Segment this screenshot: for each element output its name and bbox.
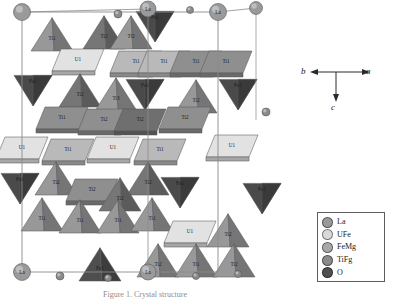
atom-la [14,4,31,21]
polyhedron-face [152,198,173,231]
polyhedron-face [42,139,94,161]
atom-o [114,10,122,18]
polyhedron-face [164,243,207,247]
polyhedron-face [114,131,157,135]
polyhedron-fe1 [243,183,281,214]
polyhedron-u1 [52,49,104,75]
polyhedron-face [66,201,109,205]
polyhedron-face [262,183,281,214]
legend-swatch-o [322,267,333,278]
polyhedron-face [114,109,166,131]
legend-item: UFe [322,229,384,242]
atom-highlight [251,3,256,8]
legend-label: FeMg [337,243,356,251]
polyhedron-ti1 [31,18,73,51]
polyhedron-fe1 [79,248,121,281]
polyhedron-fe1 [219,79,257,110]
polyhedron-fe1 [1,173,39,204]
legend-item: O [322,266,384,279]
polyhedron-face [0,159,39,163]
axis-label-b: b [301,66,306,76]
atom-highlight [16,266,23,273]
polyhedron-face [155,11,174,42]
polyhedron-face [52,49,104,71]
polyhedron-u1 [0,137,48,163]
polyhedron-ti1 [131,198,173,231]
polyhedron-face [33,75,52,106]
atom-o [187,7,194,14]
atom-highlight [115,11,118,14]
polyhedron-face [87,159,130,163]
polyhedron-face [206,157,249,161]
atom-highlight [57,273,60,276]
atom-highlight [263,109,266,112]
structure-canvas: Ti1Ti2TOFe1U1Ti1Ti1Ti1Ti1Fe1Ti2Ti3Fe1Ti2… [0,0,290,290]
atom-o [105,275,112,282]
atom-la [14,264,31,281]
polyhedron-ti1 [21,198,63,231]
polyhedron-face [36,129,79,133]
polyhedron-face [95,78,118,111]
polyhedron-face [228,214,249,247]
legend-label: TiFg [337,256,352,264]
polyhedron-face [206,135,258,157]
axis-label-c: c [331,102,335,112]
legend-swatch-tifg [322,255,333,266]
atom-la [140,1,156,17]
atom-o [193,273,200,280]
polyhedron-ti2 [159,107,211,133]
polyhedron-ti1 [134,139,186,165]
polyhedron-face [79,248,102,281]
atom-highlight [212,6,219,13]
polyhedron-ti1 [200,51,252,77]
atom-la [250,2,263,15]
axis-indicator: a b c [298,62,378,118]
polyhedron-ti2 [114,109,166,135]
legend-box: LaUFeFeMgTiFgO [317,212,385,282]
atom-la [210,4,227,21]
polyhedron-ti2 [207,214,249,247]
atom-la [140,264,156,280]
polyhedron-ti2 [213,244,255,277]
legend-label: La [337,218,345,226]
legend-item: FeMg [322,241,384,254]
atom-o [56,272,64,280]
polyhedron-ti1 [42,139,94,165]
polyhedron-face [59,74,82,107]
polyhedron-face [52,71,95,75]
polyhedron-face [159,129,202,133]
polyhedron-face [31,18,54,51]
atom-o [262,108,270,116]
legend-item: TiFg [322,254,384,267]
polyhedron-face [200,51,252,73]
polyhedron-face [0,137,48,159]
atom-highlight [142,266,149,273]
polyhedron-face [164,221,216,243]
atom-highlight [105,275,108,278]
polyhedron-u1 [164,221,216,247]
polyhedron-face [134,139,186,161]
polyhedron-face [127,162,150,195]
axis-label-a: a [366,66,371,76]
polyhedron-face [87,137,139,159]
atom-o [235,271,242,278]
atom-highlight [142,3,149,10]
polyhedron-face [52,18,73,51]
legend-swatch-ufe [322,229,333,240]
atom-highlight [16,6,23,13]
crystal-structure-diagram: Ti1Ti2TOFe1U1Ti1Ti1Ti1Ti1Fe1Ti2Ti3Fe1Ti2… [0,0,290,290]
polyhedron-u1 [206,135,258,161]
legend-swatch-la [322,217,333,228]
atom-highlight [187,7,190,10]
polyhedron-ti2 [59,74,101,107]
polyhedron-face [42,198,63,231]
legend-swatch-femg [322,242,333,253]
polyhedron-face [200,73,243,77]
polyhedra-layer [0,11,281,281]
polyhedron-face [83,16,106,49]
atom-highlight [193,273,196,276]
polyhedron-face [20,173,39,204]
polyhedron-face [35,162,58,195]
polyhedron-face [134,161,177,165]
polyhedron-fe1 [14,75,52,106]
